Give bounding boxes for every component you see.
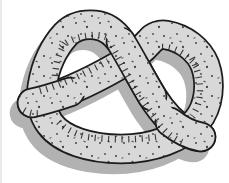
illustration-canvas: Cartoon illustration of a twisted salted…	[0, 0, 229, 183]
pretzel-illustration: Cartoon illustration of a twisted salted…	[0, 0, 229, 183]
